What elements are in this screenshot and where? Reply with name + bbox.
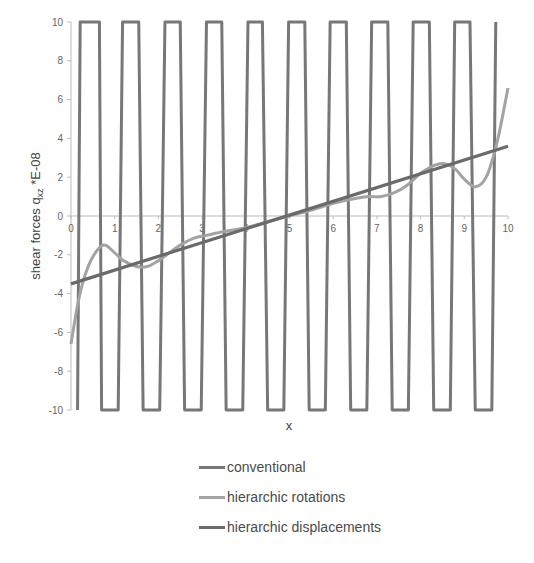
y-tick-label: -4 (54, 288, 63, 299)
x-axis: 012345678910 (68, 216, 514, 234)
legend-item-hierarchic-rotations: hierarchic rotations (199, 482, 381, 512)
y-axis-title: shear forces qxz *E-08 (28, 152, 45, 280)
y-tick-label: 8 (57, 55, 63, 66)
x-tick-label: 7 (374, 223, 380, 234)
y-tick-label: -6 (54, 327, 63, 338)
y-tick-label: 0 (57, 211, 63, 222)
x-tick-label: 5 (287, 223, 293, 234)
legend-swatch-conventional (199, 466, 225, 469)
y-tick-label: 2 (57, 172, 63, 183)
x-axis-title: x (286, 418, 293, 433)
x-tick-label: 10 (502, 223, 514, 234)
legend-label: hierarchic displacements (227, 519, 381, 535)
legend-swatch-hierarchic-displacements (199, 526, 225, 529)
legend-item-hierarchic-displacements: hierarchic displacements (199, 512, 381, 542)
legend-label: hierarchic rotations (227, 489, 345, 505)
y-tick-label: -8 (54, 366, 63, 377)
x-tick-label: 8 (418, 223, 424, 234)
x-tick-label: 0 (68, 223, 74, 234)
y-tick-label: -2 (54, 249, 63, 260)
x-tick-label: 6 (330, 223, 336, 234)
x-tick-label: 9 (462, 223, 468, 234)
y-tick-label: 10 (52, 17, 64, 28)
legend-item-conventional: conventional (199, 452, 381, 482)
legend-swatch-hierarchic-rotations (199, 496, 225, 499)
y-tick-label: -10 (49, 405, 64, 416)
x-tick-label: 1 (112, 223, 118, 234)
y-tick-label: 4 (57, 133, 63, 144)
y-axis: 1086420-2-4-6-8-10 (49, 17, 71, 416)
y-tick-label: 6 (57, 94, 63, 105)
legend: conventional hierarchic rotations hierar… (199, 452, 381, 542)
series-hierarchic-displacements (71, 146, 508, 284)
legend-label: conventional (227, 459, 306, 475)
